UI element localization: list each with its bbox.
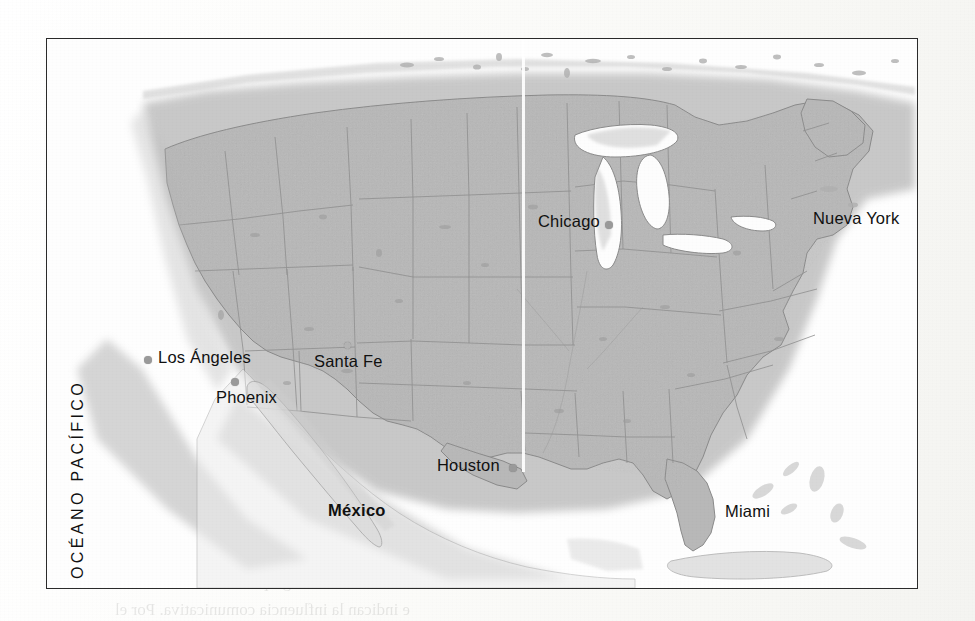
- country-label-mxico: México: [328, 501, 386, 520]
- city-marker-losngeles: [144, 356, 152, 364]
- city-label-phoenix: Phoenix: [216, 388, 277, 407]
- scanned-page: lo queelunarcadayo hablatérminohispanose…: [0, 0, 975, 621]
- city-marker-houston: [509, 464, 517, 472]
- ocean-label-pacifico: OCÉANO PACÍFICO: [69, 380, 87, 579]
- city-label-nuevayork: Nueva York: [813, 209, 899, 228]
- map-graphic: [47, 39, 917, 588]
- city-label-houston: Houston: [437, 456, 500, 475]
- city-label-santafe: Santa Fe: [314, 352, 383, 371]
- city-marker-santafe: [344, 342, 351, 349]
- city-label-chicago: Chicago: [538, 212, 600, 231]
- city-marker-phoenix: [231, 378, 239, 386]
- city-marker-chicago: [605, 221, 613, 229]
- scan-artifact-line: [522, 40, 525, 472]
- showthrough-text: e indican la influencia comunicativa. Po…: [115, 600, 410, 620]
- map-figure: OCÉANO PACÍFICO MéxicoChicagoNueva YorkL…: [46, 38, 918, 589]
- city-label-losngeles: Los Ángeles: [158, 348, 251, 367]
- city-label-miami: Miami: [725, 502, 770, 521]
